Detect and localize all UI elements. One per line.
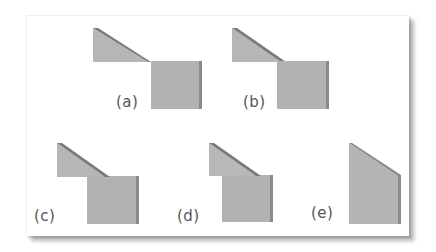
panel-b-label: (b) [243, 95, 266, 110]
cube-shape [277, 61, 329, 109]
panel-a-shapes [90, 26, 205, 114]
cube-shape [87, 176, 139, 224]
cube-shape [151, 61, 202, 109]
panel-e-shapes [346, 140, 406, 228]
cube-shape [222, 175, 273, 222]
wedge-shape [57, 143, 110, 177]
wedge-shape [209, 143, 261, 176]
panel-d-label: (d) [177, 209, 200, 224]
merged-shape [349, 143, 401, 224]
panel-e-label: (e) [311, 206, 333, 221]
panel-c-shapes [54, 140, 144, 228]
panel-c-label: (c) [34, 209, 55, 224]
panel-d-shapes [206, 140, 281, 228]
wedge-shape [232, 28, 286, 62]
panel-a-label: (a) [116, 95, 138, 110]
wedge-shape [93, 28, 151, 62]
